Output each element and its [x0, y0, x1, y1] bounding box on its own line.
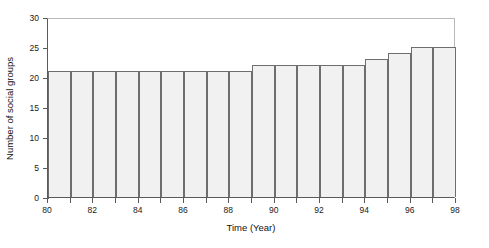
x-axis-tick	[160, 198, 161, 203]
bars-layer	[48, 19, 454, 197]
x-axis-tick-label: 98	[440, 206, 470, 215]
x-axis-tick	[410, 198, 411, 203]
x-axis-tick	[228, 198, 229, 203]
x-axis-tick	[47, 198, 48, 203]
x-axis-tick	[342, 198, 343, 203]
x-axis-tick	[115, 198, 116, 203]
bar-chart: Number of social groups 051015202530 808…	[0, 0, 489, 248]
x-axis-tick-label: 88	[213, 206, 243, 215]
x-axis-tick-label: 92	[304, 206, 334, 215]
bar	[116, 71, 139, 197]
y-axis-tick-label: 5	[17, 164, 39, 173]
x-axis-tick	[364, 198, 365, 203]
x-axis-tick	[455, 198, 456, 203]
bar	[71, 71, 94, 197]
y-axis-tick-label: 20	[17, 74, 39, 83]
bar	[297, 65, 320, 197]
bar	[275, 65, 298, 197]
bar	[411, 47, 434, 197]
bar	[48, 71, 71, 197]
x-axis-tick	[387, 198, 388, 203]
bar	[388, 53, 411, 197]
x-axis-tick-label: 84	[123, 206, 153, 215]
x-axis-tick-label: 90	[259, 206, 289, 215]
bar	[433, 47, 456, 197]
x-axis-tick	[251, 198, 252, 203]
x-axis-tick	[296, 198, 297, 203]
x-axis-tick	[432, 198, 433, 203]
x-axis-tick	[183, 198, 184, 203]
x-axis-tick-label: 96	[395, 206, 425, 215]
x-axis-tick-label: 94	[349, 206, 379, 215]
x-axis-tick	[319, 198, 320, 203]
x-axis-tick-label: 86	[168, 206, 198, 215]
bar	[229, 71, 252, 197]
bar	[207, 71, 230, 197]
plot-area	[47, 18, 455, 198]
bar	[252, 65, 275, 197]
bar	[161, 71, 184, 197]
x-axis-tick	[92, 198, 93, 203]
y-axis-tick-label: 30	[17, 14, 39, 23]
bar	[93, 71, 116, 197]
y-axis-tick-label: 25	[17, 44, 39, 53]
bar	[343, 65, 366, 197]
x-axis-tick-label: 80	[32, 206, 62, 215]
bar	[139, 71, 162, 197]
x-axis-tick	[70, 198, 71, 203]
x-axis-tick	[274, 198, 275, 203]
y-axis-title: Number of social groups	[2, 18, 16, 198]
y-axis-tick-label: 0	[17, 194, 39, 203]
y-axis-title-text: Number of social groups	[4, 57, 15, 160]
bar	[320, 65, 343, 197]
x-axis-tick	[206, 198, 207, 203]
x-axis-tick	[138, 198, 139, 203]
y-axis-tick-label: 10	[17, 134, 39, 143]
y-axis-tick	[43, 198, 49, 199]
bar	[184, 71, 207, 197]
y-axis-tick-label: 15	[17, 104, 39, 113]
x-axis-tick-label: 82	[77, 206, 107, 215]
x-axis-title: Time (Year)	[47, 222, 455, 233]
bar	[365, 59, 388, 197]
